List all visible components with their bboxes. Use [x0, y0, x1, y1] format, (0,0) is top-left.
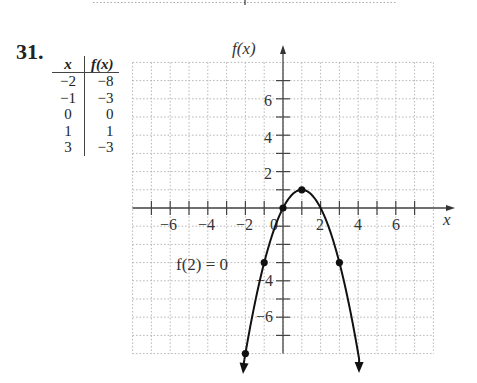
y-tick-label: −6 — [256, 308, 273, 325]
x-tick-label: −6 — [160, 216, 177, 233]
y-tick-label: 4 — [264, 129, 272, 146]
annotation-f2: f(2) = 0 — [176, 255, 228, 274]
axes — [133, 45, 455, 354]
data-point — [261, 259, 268, 266]
x-tick-label: 6 — [392, 216, 400, 233]
x-axis-label: x — [442, 210, 451, 229]
y-tick-label: 6 — [264, 92, 272, 109]
x-tick-label: −2 — [236, 216, 253, 233]
x-tick-label: 2 — [316, 216, 324, 233]
previous-graph-edge — [93, 0, 397, 5]
y-tick-label: 2 — [264, 165, 272, 182]
data-point — [298, 186, 305, 193]
x-tick-labels: −6 −4 −2 2 4 6 — [160, 216, 400, 233]
data-point — [279, 204, 286, 211]
x-tick-label: 4 — [354, 216, 362, 233]
y-axis-label: f(x) — [232, 39, 256, 58]
x-tick-label: −4 — [198, 216, 215, 233]
data-point — [242, 350, 249, 357]
graph: f(x) x 0 −6 −4 −2 2 4 6 6 4 2 −4 −6 f(2)… — [0, 0, 477, 383]
data-point — [336, 259, 343, 266]
